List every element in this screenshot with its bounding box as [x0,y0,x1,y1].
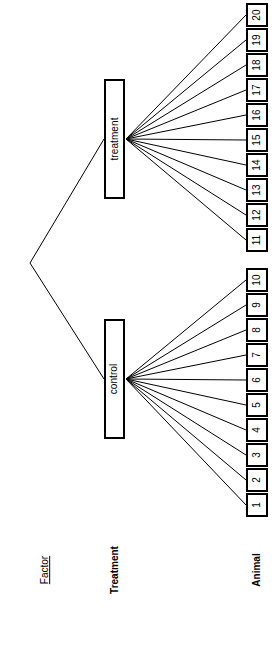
leaf-node-animal-1[interactable]: 1 [246,493,268,517]
leaf-node-animal-2[interactable]: 2 [246,468,268,492]
leaf-node-animal-12[interactable]: 12 [246,203,268,227]
edge-treatment-group-to-animal-16 [126,115,246,139]
edge-control-group-to-animal-8 [126,330,246,379]
leaf-node-animal-6-label: 6 [252,377,262,383]
edge-root-to-control-group [30,263,104,379]
group-node-control[interactable]: control [104,319,125,439]
leaf-node-animal-3-label: 3 [252,452,262,458]
edge-control-group-to-animal-5 [126,379,246,405]
leaf-node-animal-15-label: 15 [252,134,262,145]
leaf-node-animal-15[interactable]: 15 [246,128,268,152]
leaf-node-animal-8-label: 8 [252,327,262,333]
study-design-tree-diagram: treatment control 2019181716151413121110… [0,0,280,660]
leaf-node-animal-20-label: 20 [252,9,262,20]
edge-control-group-to-animal-10 [126,280,246,379]
leaf-node-animal-14-label: 14 [252,159,262,170]
group-node-treatment[interactable]: treatment [104,79,125,199]
edge-treatment-group-to-animal-15 [126,139,246,140]
leaf-node-animal-18[interactable]: 18 [246,53,268,77]
legend-label-treatment: Treatment [75,562,155,578]
edge-control-group-to-animal-7 [126,355,246,379]
leaf-node-animal-9[interactable]: 9 [246,293,268,317]
leaf-node-animal-6[interactable]: 6 [246,368,268,392]
edge-root-to-treatment-group [30,139,104,263]
leaf-node-animal-20[interactable]: 20 [246,3,268,27]
edge-treatment-group-to-animal-20 [126,15,246,139]
edge-treatment-group-to-animal-14 [126,139,246,165]
edge-control-group-to-animal-2 [126,379,246,480]
edge-control-group-to-animal-4 [126,379,246,430]
leaf-node-animal-1-label: 1 [252,502,262,508]
edge-control-group-to-animal-6 [126,379,246,380]
legend-label-factor: Factor [5,562,85,578]
leaf-node-animal-12-label: 12 [252,209,262,220]
leaf-node-animal-13[interactable]: 13 [246,178,268,202]
leaf-node-animal-7-label: 7 [252,352,262,358]
leaf-node-animal-18-label: 18 [252,59,262,70]
group-node-treatment-label: treatment [110,117,120,160]
leaf-node-animal-10[interactable]: 10 [246,268,268,292]
leaf-node-animal-14[interactable]: 14 [246,153,268,177]
legend-label-animal: Animal [217,562,280,578]
leaf-node-animal-11-label: 11 [252,235,262,246]
leaf-node-animal-2-label: 2 [252,477,262,483]
edge-treatment-group-to-animal-18 [126,65,246,139]
leaf-node-animal-5[interactable]: 5 [246,393,268,417]
leaf-node-animal-5-label: 5 [252,402,262,408]
leaf-node-animal-13-label: 13 [252,184,262,195]
leaf-node-animal-16-label: 16 [252,109,262,120]
edge-treatment-group-to-animal-19 [126,40,246,139]
leaf-node-animal-10-label: 10 [252,274,262,285]
tree-edges [30,15,246,505]
leaf-node-animal-7[interactable]: 7 [246,343,268,367]
legend-label-treatment-text: Treatment [110,546,120,594]
edge-control-group-to-animal-1 [126,379,246,505]
edge-treatment-group-to-animal-13 [126,139,246,190]
edge-treatment-group-to-animal-17 [126,90,246,139]
leaf-node-animal-4-label: 4 [252,427,262,433]
leaf-node-animal-19[interactable]: 19 [246,28,268,52]
group-node-control-label: control [110,364,120,395]
leaf-node-animal-17[interactable]: 17 [246,78,268,102]
leaf-node-animal-17-label: 17 [252,84,262,95]
edge-control-group-to-animal-3 [126,379,246,455]
legend-label-factor-text: Factor [40,556,50,584]
leaf-node-animal-9-label: 9 [252,302,262,308]
leaf-node-animal-19-label: 19 [252,34,262,45]
leaf-node-animal-3[interactable]: 3 [246,443,268,467]
leaf-node-animal-4[interactable]: 4 [246,418,268,442]
legend-label-animal-text: Animal [252,553,262,586]
edge-treatment-group-to-animal-11 [126,139,246,240]
leaf-node-animal-16[interactable]: 16 [246,103,268,127]
leaf-node-animal-11[interactable]: 11 [246,228,268,252]
edge-control-group-to-animal-9 [126,305,246,379]
leaf-node-animal-8[interactable]: 8 [246,318,268,342]
edge-treatment-group-to-animal-12 [126,139,246,215]
